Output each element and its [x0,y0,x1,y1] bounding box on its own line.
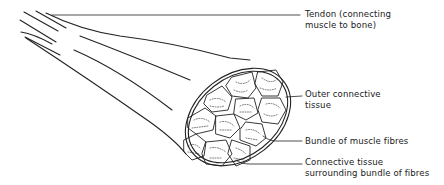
label-connective-tissue: Connective tissue surrounding bundle of … [305,157,429,178]
leader-outer-tissue [286,96,302,97]
tendon-strands [20,11,66,55]
label-tendon: Tendon (connecting muscle to bone) [305,9,391,30]
label-outer-connective-tissue: Outer connective tissue [305,89,381,110]
leader-bundle [263,136,302,141]
label-bundle-of-muscle-fibres: Bundle of muscle fibres [305,136,408,147]
muscle-fibre-bundles [184,70,286,166]
cross-section [166,48,309,185]
leader-lines [52,15,302,164]
